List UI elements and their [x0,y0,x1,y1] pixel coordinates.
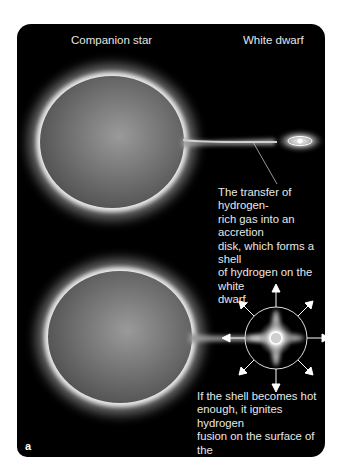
white-dwarf-label: White dwarf [243,34,304,46]
diagram-panel: Companion star White dwarf The transfer … [17,24,325,457]
caption-line: of hydrogen on the white [218,266,325,293]
caption-line: The transfer of hydrogen- [218,186,325,213]
accretion-disk [277,131,323,151]
panel-letter: a [25,440,31,452]
caption-line: rich gas into an accretion [218,213,325,240]
fusion-caption: If the shell becomes hot enough, it igni… [197,390,325,457]
caption-line: If the shell becomes hot [197,390,325,403]
accretion-caption: The transfer of hydrogen- rich gas into … [218,186,325,307]
companion-star-label: Companion star [71,34,152,46]
caption-line: fusion on the surface of the [197,430,325,457]
callout-line [253,142,277,184]
caption-line: dwarf. [218,293,325,306]
caption-line: disk, which forms a shell [218,240,325,267]
caption-line: enough, it ignites hydrogen [197,403,325,430]
